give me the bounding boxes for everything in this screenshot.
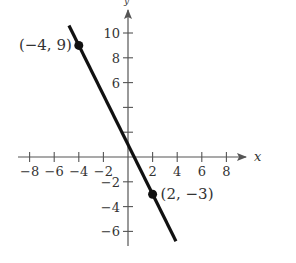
x-tick-label: 8 xyxy=(222,164,230,179)
x-axis: x −8−6−4−22468 xyxy=(18,149,262,179)
y-tick-label: 6 xyxy=(112,76,120,91)
x-tick-label: 6 xyxy=(198,164,206,179)
x-tick-label: 4 xyxy=(173,164,181,179)
x-tick-label: −6 xyxy=(45,164,64,179)
point-label: (−4, 9) xyxy=(19,36,72,54)
y-tick-label: 10 xyxy=(103,26,120,41)
point-label: (2, −3) xyxy=(161,185,214,203)
y-axis-label: y xyxy=(123,0,130,6)
data-point xyxy=(148,190,157,199)
x-axis-label: x xyxy=(254,149,262,164)
y-tick-label: 8 xyxy=(112,51,120,66)
x-tick-label: −8 xyxy=(20,164,39,179)
y-tick-label: −4 xyxy=(101,200,120,215)
data-line xyxy=(69,26,176,242)
data-point xyxy=(74,41,83,50)
y-tick-label: −6 xyxy=(101,224,120,239)
x-tick-label: −4 xyxy=(69,164,88,179)
y-tick-label: −2 xyxy=(101,175,120,190)
x-tick-label: 2 xyxy=(148,164,156,179)
line-graph: x −8−6−4−22468 y 1086−2−4−6 (−4, 9)(2, −… xyxy=(0,0,296,263)
x-ticks: −8−6−4−22468 xyxy=(20,152,231,179)
